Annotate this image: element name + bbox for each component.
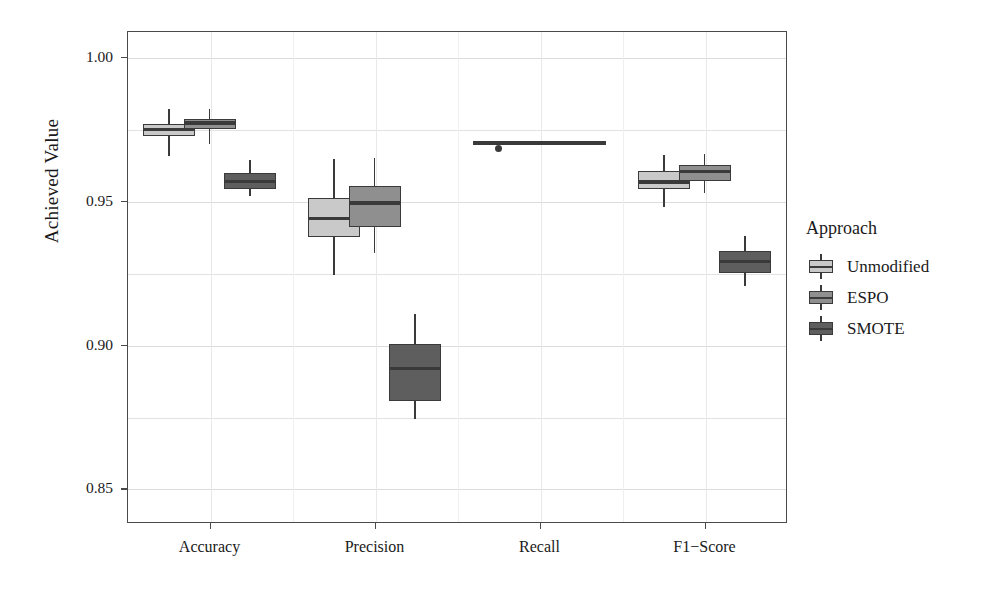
x-axis-tick-label: Accuracy xyxy=(130,539,290,555)
boxplot-figure: Achieved Value 1.000.950.900.85 Accuracy… xyxy=(0,0,991,598)
legend-key-icon xyxy=(806,315,836,342)
gridline-horizontal xyxy=(128,202,786,203)
legend-item-espo[interactable]: ESPO xyxy=(806,284,986,311)
gridline-horizontal xyxy=(128,346,786,347)
x-axis-tick-mark xyxy=(705,523,706,529)
x-axis-tick-mark xyxy=(375,523,376,529)
legend-item-label: SMOTE xyxy=(847,319,905,339)
boxplot-box xyxy=(389,344,441,401)
boxplot-median-line xyxy=(638,180,690,183)
boxplot-box xyxy=(554,141,606,145)
x-axis-tick-mark xyxy=(210,523,211,529)
legend-item-smote[interactable]: SMOTE xyxy=(806,315,986,342)
legend-item-unmodified[interactable]: Unmodified xyxy=(806,253,986,280)
gridline-horizontal-minor xyxy=(128,418,786,419)
plot-panel xyxy=(127,31,787,523)
gridline-vertical-minor xyxy=(623,32,624,522)
x-axis-tick-label: F1−Score xyxy=(625,539,785,555)
gridline-vertical xyxy=(211,32,212,522)
y-axis-title: Achieved Value xyxy=(41,71,63,291)
y-axis-tick-label: 1.00 xyxy=(67,49,113,65)
y-axis-tick-label: 0.85 xyxy=(67,480,113,496)
y-axis-tick-label: 0.90 xyxy=(67,337,113,353)
x-axis-tick-mark xyxy=(540,523,541,529)
gridline-horizontal xyxy=(128,58,786,59)
boxplot-median-line xyxy=(719,260,771,263)
boxplot-median-line xyxy=(184,121,236,124)
gridline-vertical xyxy=(541,32,542,522)
legend-key-icon xyxy=(806,284,836,311)
legend-title: Approach xyxy=(806,218,986,239)
y-axis-tick-label: 0.95 xyxy=(67,193,113,209)
gridline-vertical-minor xyxy=(293,32,294,522)
legend-item-label: Unmodified xyxy=(847,257,929,277)
gridline-vertical xyxy=(706,32,707,522)
gridline-vertical-minor xyxy=(458,32,459,522)
gridline-horizontal xyxy=(128,489,786,490)
boxplot-median-line xyxy=(679,170,731,173)
boxplot-median-line xyxy=(349,201,401,204)
x-axis-tick-label: Precision xyxy=(295,539,455,555)
legend: Approach UnmodifiedESPOSMOTE xyxy=(806,218,986,346)
boxplot-box xyxy=(349,186,401,227)
boxplot-median-line xyxy=(224,180,276,183)
gridline-horizontal-minor xyxy=(128,274,786,275)
x-axis-tick-label: Recall xyxy=(460,539,620,555)
gridline-horizontal-minor xyxy=(128,130,786,131)
legend-key-icon xyxy=(806,253,836,280)
legend-item-label: ESPO xyxy=(847,288,889,308)
gridline-vertical xyxy=(376,32,377,522)
boxplot-median-line xyxy=(389,367,441,370)
legend-items: UnmodifiedESPOSMOTE xyxy=(806,253,986,342)
